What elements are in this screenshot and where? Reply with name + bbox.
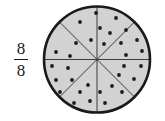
counter-dot xyxy=(70,78,74,82)
counter-dot xyxy=(117,73,121,77)
counter-dot xyxy=(74,41,78,45)
counter-dot xyxy=(78,90,82,94)
counter-dot xyxy=(98,90,102,94)
counter-dot xyxy=(102,42,106,46)
counter-dot xyxy=(132,77,136,81)
counter-dot xyxy=(122,64,126,68)
counter-dot xyxy=(78,20,82,24)
counter-dot xyxy=(98,26,102,30)
counter-dot xyxy=(119,41,123,45)
counter-dot xyxy=(135,38,139,42)
counter-dot xyxy=(108,31,112,35)
counter-dot xyxy=(124,28,128,32)
counter-dot xyxy=(139,64,143,68)
counter-dot xyxy=(66,66,70,70)
counter-dot xyxy=(94,11,98,15)
counter-dot xyxy=(54,78,58,82)
counter-dot xyxy=(58,90,62,94)
counter-dot xyxy=(88,99,92,103)
counter-dot xyxy=(72,101,76,105)
counter-dot xyxy=(54,50,58,54)
counter-dot xyxy=(120,90,124,94)
fraction-circle-diagram xyxy=(0,0,165,121)
counter-dot xyxy=(50,64,54,68)
counter-dot xyxy=(89,38,93,42)
counter-dot xyxy=(140,49,144,53)
figure-canvas: 8 8 xyxy=(0,0,165,121)
counter-dot xyxy=(114,16,118,20)
circle-group xyxy=(44,7,150,113)
counter-dot xyxy=(86,83,90,87)
counter-dot xyxy=(124,53,128,57)
counter-dot xyxy=(68,54,72,58)
counter-dot xyxy=(110,84,114,88)
counter-dot xyxy=(103,101,107,105)
